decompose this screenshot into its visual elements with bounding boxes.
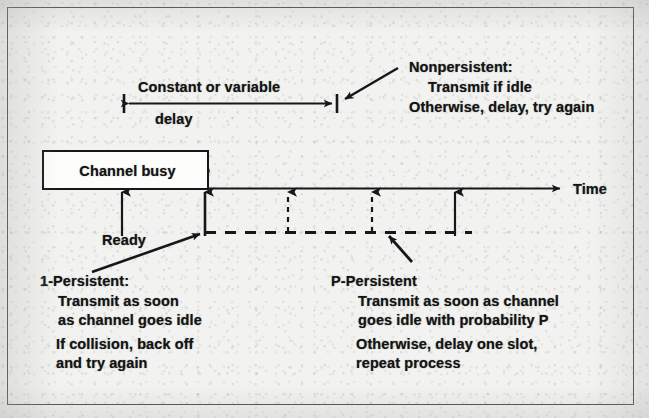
- ready-label: Ready: [102, 231, 146, 250]
- channel-busy-box: Channel busy: [42, 150, 209, 190]
- slot-marker-arrows: [122, 192, 455, 236]
- nonpersistent-callout-arrow: [345, 68, 398, 99]
- one-persistent-line-4: and try again: [56, 354, 148, 373]
- nonpersistent-line-2: Otherwise, delay, try again: [409, 98, 594, 117]
- one-persistent-line-3: If collision, back off: [56, 335, 194, 354]
- p-persistent-line-4: repeat process: [356, 354, 461, 373]
- p-persistent-line-2: goes idle with probability P: [358, 311, 549, 330]
- nonpersistent-title: Nonpersistent:: [409, 58, 513, 77]
- delay-label-line1: Constant or variable: [138, 78, 280, 97]
- p-persistent-line-1: Transmit as soon as channel: [358, 292, 559, 311]
- channel-busy-label: Channel busy: [44, 162, 211, 181]
- p-persistent-line-3: Otherwise, delay one slot,: [356, 335, 538, 354]
- p-persistent-title: P-Persistent: [331, 272, 417, 291]
- nonpersistent-line-1: Transmit if idle: [428, 78, 532, 97]
- p-persistent-callout-arrow: [389, 236, 412, 262]
- delay-label-line2: delay: [155, 110, 193, 129]
- figure-canvas: Constant or variable delay Nonpersistent…: [0, 0, 649, 418]
- one-persistent-line-2: as channel goes idle: [58, 311, 202, 330]
- one-persistent-line-1: Transmit as soon: [58, 292, 179, 311]
- one-persistent-title: 1-Persistent:: [40, 272, 129, 291]
- time-axis-label: Time: [573, 180, 607, 199]
